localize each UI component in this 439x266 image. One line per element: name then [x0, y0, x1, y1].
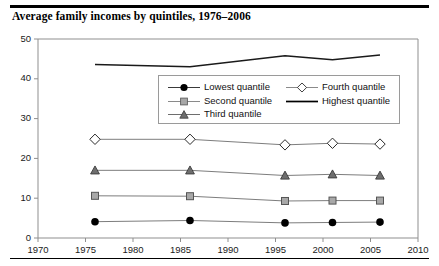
data-point-marker [327, 138, 337, 148]
solid-line-marker-icon [285, 94, 319, 107]
series-line-highest-quantile [95, 55, 380, 67]
series-line-lowest-quantile [95, 220, 380, 222]
legend-label: Third quantile [204, 108, 262, 119]
chart-svg [0, 0, 439, 266]
y-axis-tick-label: 20 [9, 152, 31, 163]
legend-entry-second-quantile: Second quantile [167, 94, 272, 108]
legend-entry-highest-quantile: Highest quantile [285, 94, 390, 108]
data-point-marker [281, 219, 289, 227]
data-point-marker [329, 219, 337, 227]
bottom-rule [10, 258, 429, 259]
data-point-marker [91, 218, 99, 226]
x-axis-tick-label: 1975 [69, 244, 103, 255]
data-point-marker [280, 140, 290, 150]
x-axis-tick-label: 1990 [211, 244, 245, 255]
filled-triangle-marker-icon [167, 107, 201, 120]
x-axis-tick-label: 2010 [401, 244, 435, 255]
figure-container: Average family incomes by quintiles, 197… [0, 0, 439, 266]
y-axis-tick-label: 10 [9, 192, 31, 203]
x-axis-tick-label: 2005 [354, 244, 388, 255]
data-point-marker [92, 192, 99, 199]
data-point-marker [187, 193, 194, 200]
data-point-marker [282, 197, 289, 204]
legend-entry-lowest-quantile: Lowest quantile [167, 80, 272, 94]
legend-label: Highest quantile [322, 95, 390, 106]
data-point-marker [329, 197, 336, 204]
filled-circle-marker-icon [167, 80, 201, 93]
legend-entry-third-quantile: Third quantile [167, 107, 272, 121]
data-point-marker [377, 197, 384, 204]
legend-entry-fourth-quantile: Fourth quantile [285, 80, 390, 94]
legend-column-2: Fourth quantile Highest quantile [285, 80, 390, 107]
filled-square-marker-icon [167, 94, 201, 107]
data-point-marker [185, 134, 195, 144]
y-axis-tick-label: 0 [9, 232, 31, 243]
x-axis-tick-label: 2000 [306, 244, 340, 255]
series-line-second-quantile [95, 196, 380, 201]
data-point-marker [376, 218, 384, 226]
y-axis-tick-label: 50 [9, 33, 31, 44]
x-axis-tick-label: 1995 [259, 244, 293, 255]
data-point-marker [186, 217, 194, 225]
chart-legend: Lowest quantile Second quantile [158, 75, 400, 124]
x-axis-tick-label: 1970 [21, 244, 55, 255]
y-axis-tick-label: 30 [9, 112, 31, 123]
x-axis-tick-label: 1985 [164, 244, 198, 255]
legend-label: Fourth quantile [322, 81, 385, 92]
legend-label: Second quantile [204, 95, 272, 106]
series-line-third-quantile [95, 170, 380, 175]
legend-column-1: Lowest quantile Second quantile [167, 80, 272, 121]
data-point-marker [90, 134, 100, 144]
plot-area: 0102030405019701975198019851990199520002… [0, 0, 439, 266]
x-axis-tick-label: 1980 [116, 244, 150, 255]
y-axis-tick-label: 40 [9, 72, 31, 83]
data-point-marker [375, 139, 385, 149]
open-diamond-marker-icon [285, 80, 319, 93]
legend-label: Lowest quantile [204, 81, 270, 92]
